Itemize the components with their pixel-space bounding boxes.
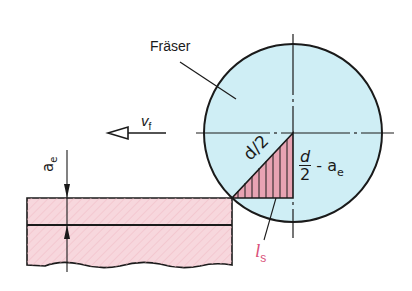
fraction-numerator: d bbox=[299, 148, 311, 165]
feed-velocity-symbol: v bbox=[141, 112, 149, 129]
workpiece bbox=[27, 198, 232, 268]
feed-arrow bbox=[108, 127, 166, 139]
depth-label: ae bbox=[39, 157, 59, 172]
fraction: d 2 bbox=[299, 148, 311, 183]
depth-symbol: a bbox=[39, 163, 57, 172]
cutter-label: Fräser bbox=[150, 38, 190, 54]
fraction-suffix-subscript: e bbox=[337, 166, 344, 179]
milling-diagram bbox=[0, 0, 412, 291]
feed-velocity-label: vf bbox=[141, 112, 151, 132]
fraction-denominator: 2 bbox=[299, 165, 311, 183]
contact-length-subscript: s bbox=[260, 251, 266, 265]
feed-velocity-subscript: f bbox=[149, 121, 152, 132]
radius-minus-depth-label: d 2 - ae bbox=[299, 148, 344, 183]
cutter-label-text: Fräser bbox=[150, 38, 190, 54]
depth-subscript: e bbox=[48, 157, 59, 163]
contact-length-label: ls bbox=[255, 240, 266, 265]
fraction-suffix: - a bbox=[316, 156, 337, 175]
